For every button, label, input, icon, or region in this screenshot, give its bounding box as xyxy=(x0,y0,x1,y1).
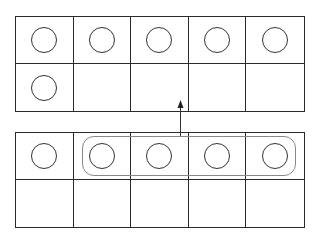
up-arrow-icon xyxy=(0,0,317,242)
